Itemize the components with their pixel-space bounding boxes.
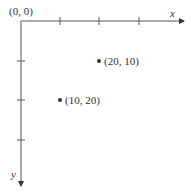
point-20-10 (97, 59, 101, 63)
point-10-20 (58, 98, 62, 102)
origin-label: (0, 0) (9, 5, 33, 18)
coordinate-diagram: (0, 0) x y (20, 10) (10, 20) (0, 0, 191, 194)
x-axis-label: x (169, 7, 175, 19)
y-axis-label: y (10, 168, 16, 180)
point-label-20-10: (20, 10) (104, 55, 139, 68)
point-label-10-20: (10, 20) (65, 94, 100, 107)
